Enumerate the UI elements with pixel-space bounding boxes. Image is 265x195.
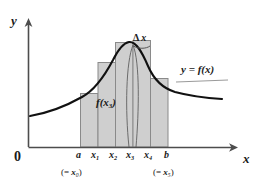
riemann-bar-3 xyxy=(116,43,134,148)
origin-label: 0 xyxy=(14,150,21,164)
endpoint-note-x0: (= x0) xyxy=(61,168,82,177)
y-axis xyxy=(25,18,33,147)
tick-label-a-text: a xyxy=(76,149,81,160)
endpoint-note-x0-suffix: ) xyxy=(79,167,82,177)
y-axis-label: y xyxy=(11,14,17,27)
endpoint-note-x5-prefix: (= xyxy=(153,167,163,177)
bar-value-label-close: ) xyxy=(112,96,116,108)
delta-x-label: Δx xyxy=(133,33,146,43)
riemann-bars xyxy=(81,41,169,148)
curve-label-underline xyxy=(176,80,228,82)
figure-canvas xyxy=(0,0,265,195)
endpoint-note-x0-prefix: (= xyxy=(61,167,71,177)
tick-label-x2-sub: 2 xyxy=(114,154,117,161)
bar-value-label-sub: 3 xyxy=(109,102,112,109)
tick-label-x3: x3 xyxy=(126,150,134,160)
x-axis-label: x xyxy=(243,152,250,165)
tick-label-x1-sub: 1 xyxy=(96,154,99,161)
tick-label-x4-sub: 4 xyxy=(149,154,152,161)
tick-label-a: a xyxy=(76,150,81,160)
bar-value-label-text: f(x xyxy=(96,96,109,108)
endpoint-note-x5-sub: 5 xyxy=(168,172,171,178)
tick-label-x2: x2 xyxy=(109,150,117,160)
tick-label-b-text: b xyxy=(164,149,169,160)
endpoint-note-x5: (= x5) xyxy=(153,168,174,177)
tick-label-x1: x1 xyxy=(91,150,99,160)
tick-label-x4: x4 xyxy=(144,150,152,160)
riemann-sum-figure: y x 0 a x1 x2 x3 x4 b (= x0) (= x5) f(x3… xyxy=(0,0,265,195)
endpoint-note-x5-suffix: ) xyxy=(171,167,174,177)
tick-label-x3-sub: 3 xyxy=(131,154,134,161)
bar-value-label: f(x3) xyxy=(96,97,116,108)
function-curve-label: y = f(x) xyxy=(181,64,214,75)
delta-x-var: x xyxy=(141,32,146,43)
endpoint-note-x0-sub: 0 xyxy=(76,172,79,178)
tick-label-b: b xyxy=(164,150,169,160)
delta-symbol: Δ xyxy=(133,32,139,43)
